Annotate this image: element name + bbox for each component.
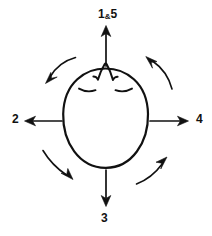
label-bottom-3: 3 xyxy=(101,212,108,224)
curved-arrow-lower-right-shaft xyxy=(137,164,163,185)
curved-arrow-lower-right-head xyxy=(156,157,167,169)
nose-base-right xyxy=(113,77,118,80)
curved-arrow-lower-left-shaft xyxy=(43,151,67,176)
curved-arrow-lower-left-head xyxy=(61,169,73,180)
closed-eye-right-icon xyxy=(116,89,133,92)
diagram-canvas: 1&5 2 4 3 xyxy=(0,0,212,236)
curved-arrow-upper-left-shaft xyxy=(50,58,76,78)
closed-eye-left-icon xyxy=(79,89,96,92)
label-right-4: 4 xyxy=(196,113,203,125)
label-left-2: 2 xyxy=(12,113,19,125)
label-top-secondary: 5 xyxy=(110,7,117,21)
label-top-1and5: 1&5 xyxy=(98,8,117,20)
diagram-svg xyxy=(0,0,212,236)
curved-arrow-upper-right-shaft xyxy=(153,61,173,89)
label-top-ampersand: & xyxy=(105,12,111,21)
label-top-primary: 1 xyxy=(98,7,105,21)
head-outline xyxy=(63,69,148,168)
nose-base-left xyxy=(93,77,98,80)
